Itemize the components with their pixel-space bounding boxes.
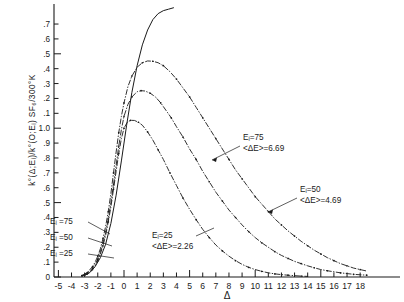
data-point xyxy=(176,78,178,80)
axes-group xyxy=(54,4,400,277)
data-point xyxy=(113,188,115,190)
y-tick-label: .2 xyxy=(43,94,50,103)
data-point xyxy=(208,237,210,239)
data-point xyxy=(333,260,335,262)
x-tick-label: -5 xyxy=(55,281,63,291)
data-point xyxy=(261,242,263,244)
x-tick-label: 1 xyxy=(135,281,140,291)
data-point xyxy=(287,258,289,260)
data-point xyxy=(359,269,361,271)
y-tick-label: .1 xyxy=(43,109,50,118)
left-label-ei75: Eᵢ =75 xyxy=(50,217,73,226)
data-point xyxy=(222,200,224,202)
leader-line xyxy=(196,228,214,236)
x-tick-label: 5 xyxy=(187,281,192,291)
annot-ei75-line1: Eᵢ=75 xyxy=(243,133,264,142)
data-point xyxy=(281,224,283,226)
x-tick-label: 17 xyxy=(342,281,352,291)
x-tick-group: -5-4-3-2-10123456789101112131415161718 xyxy=(55,270,366,291)
data-point xyxy=(163,65,165,67)
y-tick-label: 0 xyxy=(45,273,50,282)
chart-figure: k°(Δ;Eᵢ)/k°(O;Eᵢ) SF₆/300°K 0.1.2.3.4.5.… xyxy=(0,0,404,302)
data-point xyxy=(81,275,83,277)
annot-ei25-line2: <ΔE>=2.26 xyxy=(152,242,194,251)
data-point xyxy=(235,217,237,219)
data-point xyxy=(152,60,154,62)
data-point xyxy=(107,221,109,223)
data-point xyxy=(235,260,237,262)
y-tick-label: .8 xyxy=(43,154,50,163)
x-tick-label: 10 xyxy=(250,281,260,291)
annot-ei50-line2: <ΔE>=4.69 xyxy=(300,196,342,205)
data-point xyxy=(294,235,296,237)
data-point xyxy=(287,274,289,276)
y-tick-label: .5 xyxy=(43,199,50,208)
data-point xyxy=(261,271,263,273)
annot-ei25-line1: Eᵢ=25 xyxy=(152,231,173,240)
y-tick-label: .1 xyxy=(43,258,50,267)
data-point xyxy=(107,218,109,220)
data-point xyxy=(131,75,133,77)
data-curves-group xyxy=(81,8,367,277)
x-tick-label: 2 xyxy=(148,281,153,291)
x-tick-label: 15 xyxy=(316,281,326,291)
x-tick-label: 0 xyxy=(122,281,127,291)
x-tick-label: -4 xyxy=(68,281,76,291)
y-tick-label: .7 xyxy=(43,169,50,178)
data-point xyxy=(248,231,250,233)
data-point xyxy=(274,273,276,275)
x-tick-label: 3 xyxy=(161,281,166,291)
y-tick-label: .6 xyxy=(43,35,50,44)
data-point xyxy=(123,115,125,117)
data-point xyxy=(123,102,125,104)
x-tick-label: 14 xyxy=(303,281,313,291)
data-point xyxy=(313,267,315,269)
data-point xyxy=(300,263,302,265)
data-point xyxy=(113,172,115,174)
x-tick-label: 7 xyxy=(213,281,218,291)
x-tick-label: -3 xyxy=(81,281,89,291)
data-point xyxy=(130,119,132,121)
annotation-group: Eᵢ=75<ΔE>=6.69Eᵢ=50<ΔE>=4.69Eᵢ=25<ΔE>=2.… xyxy=(152,133,342,251)
y-tick-label: .5 xyxy=(43,50,50,59)
data-point xyxy=(118,132,120,134)
leader-line xyxy=(88,222,110,234)
data-point xyxy=(353,273,355,275)
data-point xyxy=(147,131,149,133)
x-tick-label: 16 xyxy=(329,281,339,291)
left-label-ei50: Eᵢ =50 xyxy=(50,233,73,242)
y-tick-label: 1.0 xyxy=(39,124,51,133)
data-point xyxy=(208,181,210,183)
annot-ei50-line1: Eᵢ=50 xyxy=(300,185,321,194)
data-point xyxy=(307,245,309,247)
data-point xyxy=(222,250,224,252)
data-point xyxy=(142,62,144,64)
data-point xyxy=(195,219,197,221)
data-point xyxy=(254,196,256,198)
data-point xyxy=(366,274,368,276)
data-point xyxy=(182,197,184,199)
data-point xyxy=(102,245,104,247)
y-tick-label: .6 xyxy=(43,184,50,193)
leader-line xyxy=(88,238,112,246)
y-tick-label: .9 xyxy=(43,139,50,148)
data-point xyxy=(157,149,159,151)
data-point xyxy=(140,90,142,92)
data-point xyxy=(182,136,184,138)
data-curve-2 xyxy=(82,91,367,276)
data-point xyxy=(248,266,250,268)
data-point xyxy=(346,265,348,267)
y-axis-title: k°(Δ;Eᵢ)/k°(O;Eᵢ) SF₆/300°K xyxy=(27,20,37,240)
x-axis-title: Δ xyxy=(224,290,231,301)
left-label-ei25: Eᵢ =25 xyxy=(50,249,73,258)
data-point xyxy=(241,178,243,180)
data-point xyxy=(107,211,109,213)
y-tick-label: .4 xyxy=(43,65,50,74)
left-label-group: Eᵢ =75Eᵢ =50Eᵢ =25 xyxy=(50,217,73,258)
data-curve-1 xyxy=(82,61,367,276)
data-point xyxy=(327,270,329,272)
annot-ei75-line2: <ΔE>=6.69 xyxy=(243,144,285,153)
data-point xyxy=(160,102,162,104)
x-tick-label: -2 xyxy=(94,281,102,291)
y-tick-label: .3 xyxy=(43,80,50,89)
